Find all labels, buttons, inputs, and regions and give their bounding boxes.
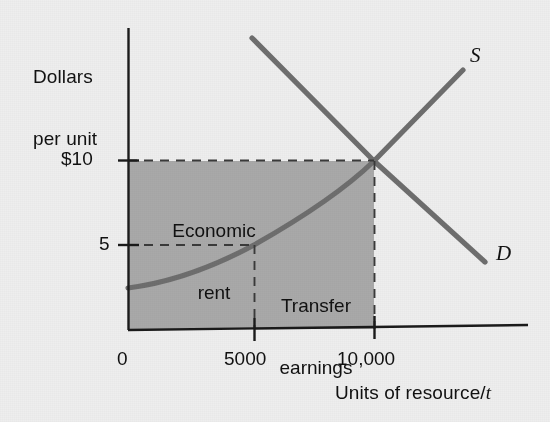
- transfer-earnings-label-line1: Transfer: [254, 296, 378, 317]
- x-axis-title-italic-t: t: [486, 382, 491, 403]
- x-axis-origin-label: 0: [117, 349, 128, 370]
- transfer-earnings-label-line2: earnings: [254, 358, 378, 379]
- supply-curve-label: S: [470, 44, 481, 67]
- demand-curve-label: D: [496, 242, 511, 265]
- transfer-earnings-label: Transfer earnings: [254, 255, 378, 419]
- y-tick-label-10: $10: [61, 149, 93, 170]
- economic-rent-label-line1: Economic: [148, 221, 280, 242]
- y-tick-label-5: 5: [99, 234, 110, 255]
- y-axis-title-line2: per unit: [33, 129, 97, 150]
- y-axis-title-line1: Dollars: [33, 67, 97, 88]
- economic-rent-chart-figure: Dollars per unit $10 5 0 5000 10,000 Uni…: [0, 0, 550, 422]
